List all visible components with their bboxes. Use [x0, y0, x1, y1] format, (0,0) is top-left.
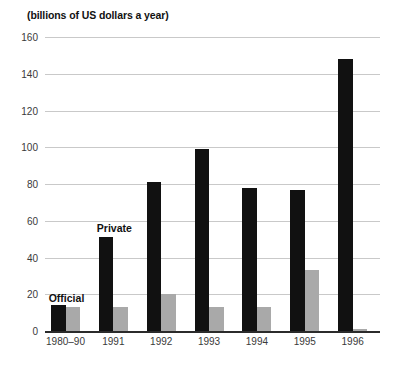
y-axis-tick-label: 40 — [0, 252, 38, 263]
y-axis-tick-label: 100 — [0, 142, 38, 153]
bar-group — [242, 37, 271, 331]
bar-private — [147, 182, 162, 331]
bar-private — [242, 188, 257, 331]
chart-title: (billions of US dollars a year) — [27, 9, 169, 21]
y-axis-tick-label: 160 — [0, 32, 38, 43]
y-axis-tick-label: 20 — [0, 289, 38, 300]
series-label-official: Official — [49, 292, 85, 304]
x-axis-tick-label: 1992 — [150, 336, 172, 347]
y-axis-tick-label: 0 — [0, 326, 38, 337]
y-axis-tick-label: 60 — [0, 215, 38, 226]
plot-area: OfficialPrivate — [45, 37, 380, 331]
x-axis-tick-label: 1993 — [198, 336, 220, 347]
bar-private — [338, 59, 353, 331]
x-axis-tick-label: 1996 — [342, 336, 364, 347]
bar-chart: (billions of US dollars a year) Official… — [0, 0, 398, 371]
bar-official — [209, 307, 224, 331]
x-axis-labels: 1980–90199119921993199419951996 — [45, 336, 380, 356]
y-axis-tick-label: 80 — [0, 179, 38, 190]
bar-official — [305, 270, 320, 331]
x-axis-tick-label: 1980–90 — [46, 336, 85, 347]
bar-group — [338, 37, 367, 331]
bar-private — [290, 190, 305, 331]
bar-group — [99, 37, 128, 331]
bar-private — [51, 305, 66, 331]
x-axis-tick-label: 1995 — [294, 336, 316, 347]
axis-baseline — [45, 331, 380, 333]
bar-official — [161, 294, 176, 331]
series-label-private: Private — [97, 222, 132, 234]
y-axis-tick-label: 140 — [0, 68, 38, 79]
bar-private — [195, 149, 210, 331]
y-axis-tick-label: 120 — [0, 105, 38, 116]
bar-group — [290, 37, 319, 331]
bar-group — [195, 37, 224, 331]
bar-group — [51, 37, 80, 331]
bar-official — [353, 329, 368, 331]
bar-official — [113, 307, 128, 331]
x-axis-tick-label: 1994 — [246, 336, 268, 347]
bar-official — [257, 307, 272, 331]
bar-official — [66, 307, 81, 331]
x-axis-tick-label: 1991 — [102, 336, 124, 347]
bar-private — [99, 237, 114, 331]
bar-group — [147, 37, 176, 331]
